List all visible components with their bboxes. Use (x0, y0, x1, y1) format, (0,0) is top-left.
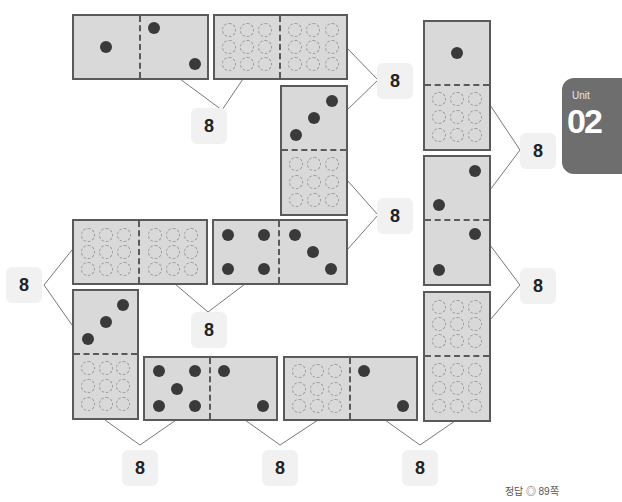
domino-half (74, 16, 141, 78)
pip (189, 58, 201, 70)
domino-half-blank[interactable] (215, 16, 281, 78)
domino-d5 (423, 155, 491, 286)
domino-d1 (72, 14, 209, 80)
unit-label: Unit (572, 90, 590, 101)
domino-half-blank[interactable] (425, 357, 489, 421)
domino-half (74, 291, 137, 355)
domino-half (280, 221, 346, 283)
sum-label: 8 (402, 450, 438, 486)
pip (148, 22, 160, 34)
domino-d2[interactable] (213, 14, 348, 80)
sum-label: 8 (377, 198, 413, 234)
domino-d10 (143, 356, 278, 421)
unit-badge: Unit 02 (562, 78, 622, 174)
domino-half (425, 157, 489, 221)
domino-half (425, 221, 489, 285)
domino-half (214, 221, 280, 283)
domino-half (351, 358, 417, 419)
sum-label: 8 (122, 450, 158, 486)
sum-label: 8 (520, 133, 556, 169)
sum-label: 8 (6, 267, 42, 303)
domino-d8 (212, 219, 348, 285)
sum-label: 8 (520, 268, 556, 304)
domino-half (425, 22, 489, 86)
domino-d9[interactable] (72, 289, 139, 420)
domino-half (211, 358, 277, 419)
sum-label: 8 (262, 450, 298, 486)
domino-half-blank[interactable] (425, 293, 489, 357)
domino-half (141, 16, 208, 78)
sum-label: 8 (191, 108, 227, 144)
domino-half (145, 358, 211, 419)
pip (100, 41, 112, 53)
domino-half-blank[interactable] (285, 358, 351, 419)
domino-d3[interactable] (280, 85, 348, 216)
unit-number: 02 (567, 102, 601, 141)
domino-d7[interactable] (72, 219, 208, 285)
domino-half-blank[interactable] (282, 151, 346, 215)
domino-half (282, 87, 346, 151)
sum-label: 8 (377, 63, 413, 99)
domino-half-blank[interactable] (74, 221, 140, 283)
domino-half-blank[interactable] (74, 355, 137, 419)
domino-d11[interactable] (283, 356, 418, 421)
answer-reference: 정답 ◎ 89쪽 (505, 483, 559, 498)
domino-d6[interactable] (423, 291, 491, 422)
domino-half-blank[interactable] (281, 16, 347, 78)
domino-half-blank[interactable] (425, 86, 489, 150)
sum-label: 8 (191, 312, 227, 348)
domino-half-blank[interactable] (140, 221, 206, 283)
domino-d4[interactable] (423, 20, 491, 151)
